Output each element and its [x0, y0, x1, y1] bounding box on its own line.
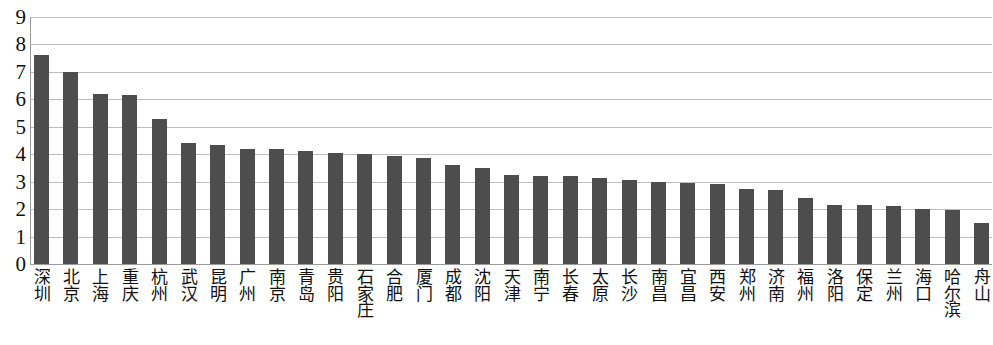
plot-area: [30, 17, 992, 265]
bar: [768, 190, 783, 264]
x-axis-label: 北京: [61, 268, 78, 301]
x-axis-label-slot: 厦门: [415, 266, 430, 345]
bar: [563, 176, 578, 264]
bar: [357, 154, 372, 264]
x-axis-label-slot: 昆明: [209, 266, 224, 345]
x-axis-label-slot: 郑州: [738, 266, 753, 345]
y-axis-tick: 7: [16, 61, 27, 82]
x-axis-label-slot: 石家庄: [356, 266, 371, 345]
x-axis-label: 青岛: [296, 268, 313, 301]
x-axis-label-slot: 杭州: [151, 266, 166, 345]
x-axis-label: 杭州: [149, 268, 166, 301]
x-axis-label: 福州: [796, 268, 813, 301]
y-axis-tick: 2: [16, 199, 27, 220]
bar: [210, 145, 225, 264]
bar: [827, 205, 842, 264]
x-axis-label: 贵阳: [326, 268, 343, 301]
bar: [857, 205, 872, 264]
x-axis-label: 长沙: [619, 268, 636, 301]
y-axis-tick: 9: [16, 7, 27, 28]
bar: [651, 182, 666, 264]
bar-chart: 0123456789 深圳北京上海重庆杭州武汉昆明广州南京青岛贵阳石家庄合肥厦门…: [0, 0, 993, 345]
x-axis-label-slot: 成都: [444, 266, 459, 345]
bar: [181, 143, 196, 264]
x-axis-label: 南京: [267, 268, 284, 301]
bar: [886, 206, 901, 264]
bar: [122, 95, 137, 264]
x-axis-label: 重庆: [120, 268, 137, 301]
x-axis-label: 保定: [854, 268, 871, 301]
x-axis-label-slot: 海口: [914, 266, 929, 345]
x-axis-label-slot: 沈阳: [474, 266, 489, 345]
x-axis-label-slot: 南京: [268, 266, 283, 345]
x-axis-label-slot: 洛阳: [826, 266, 841, 345]
bar: [445, 165, 460, 264]
x-axis-label: 济南: [766, 268, 783, 301]
x-axis-label-slot: 北京: [62, 266, 77, 345]
x-axis-label-slot: 青岛: [297, 266, 312, 345]
bar: [592, 178, 607, 264]
bar: [739, 189, 754, 264]
bar: [93, 94, 108, 264]
bar: [533, 176, 548, 264]
x-axis-label-slot: 重庆: [121, 266, 136, 345]
x-axis-label-slot: 上海: [92, 266, 107, 345]
bar: [974, 223, 989, 264]
bar: [680, 183, 695, 264]
x-axis-label-slot: 长春: [562, 266, 577, 345]
x-axis-label-slot: 宜昌: [679, 266, 694, 345]
y-axis-tick: 5: [16, 116, 27, 137]
x-axis-label: 天津: [502, 268, 519, 301]
bar: [298, 151, 313, 264]
x-axis-label: 舟山: [972, 268, 989, 301]
x-axis-label: 厦门: [414, 268, 431, 301]
x-axis-label: 昆明: [208, 268, 225, 301]
x-axis-label: 兰州: [884, 268, 901, 301]
x-axis-label: 南宁: [531, 268, 548, 301]
x-axis-label-slot: 济南: [767, 266, 782, 345]
x-axis-label: 海口: [913, 268, 930, 301]
x-axis-label: 合肥: [384, 268, 401, 301]
bar: [504, 175, 519, 264]
x-axis-label-slot: 福州: [797, 266, 812, 345]
x-axis-label-slot: 南昌: [650, 266, 665, 345]
bar: [622, 180, 637, 264]
x-axis-label: 上海: [91, 268, 108, 301]
bar: [152, 119, 167, 264]
y-axis-tick: 0: [16, 254, 27, 275]
x-axis-label: 西安: [707, 268, 724, 301]
y-axis-tick: 6: [16, 89, 27, 110]
x-axis-label: 哈尔滨: [942, 268, 959, 318]
bar: [328, 153, 343, 264]
bar: [34, 55, 49, 264]
x-axis-label-slot: 保定: [856, 266, 871, 345]
x-axis-label: 长春: [561, 268, 578, 301]
y-axis-tick: 3: [16, 171, 27, 192]
bar: [710, 184, 725, 264]
x-axis-label: 深圳: [32, 268, 49, 301]
x-axis-label-slot: 深圳: [33, 266, 48, 345]
y-axis: 0123456789: [0, 10, 30, 270]
x-axis-label: 太原: [590, 268, 607, 301]
x-axis-labels: 深圳北京上海重庆杭州武汉昆明广州南京青岛贵阳石家庄合肥厦门成都沈阳天津南宁长春太…: [30, 266, 991, 345]
bar: [240, 149, 255, 264]
x-axis-label-slot: 太原: [591, 266, 606, 345]
x-axis-label: 郑州: [737, 268, 754, 301]
x-axis-label-slot: 舟山: [973, 266, 988, 345]
x-axis-label: 广州: [237, 268, 254, 301]
x-axis-label: 武汉: [179, 268, 196, 301]
bar: [63, 72, 78, 264]
x-axis-label-slot: 长沙: [621, 266, 636, 345]
x-axis-label: 石家庄: [355, 268, 372, 318]
x-axis-label: 洛阳: [825, 268, 842, 301]
x-axis-label: 宜昌: [678, 268, 695, 301]
bar: [387, 156, 402, 264]
y-axis-tick: 4: [16, 144, 27, 165]
bar: [416, 158, 431, 264]
x-axis-label-slot: 兰州: [885, 266, 900, 345]
x-axis-label: 成都: [443, 268, 460, 301]
y-axis-tick: 1: [16, 226, 27, 247]
x-axis-label-slot: 天津: [503, 266, 518, 345]
x-axis-label: 沈阳: [472, 268, 489, 301]
x-axis-label-slot: 哈尔滨: [944, 266, 959, 345]
